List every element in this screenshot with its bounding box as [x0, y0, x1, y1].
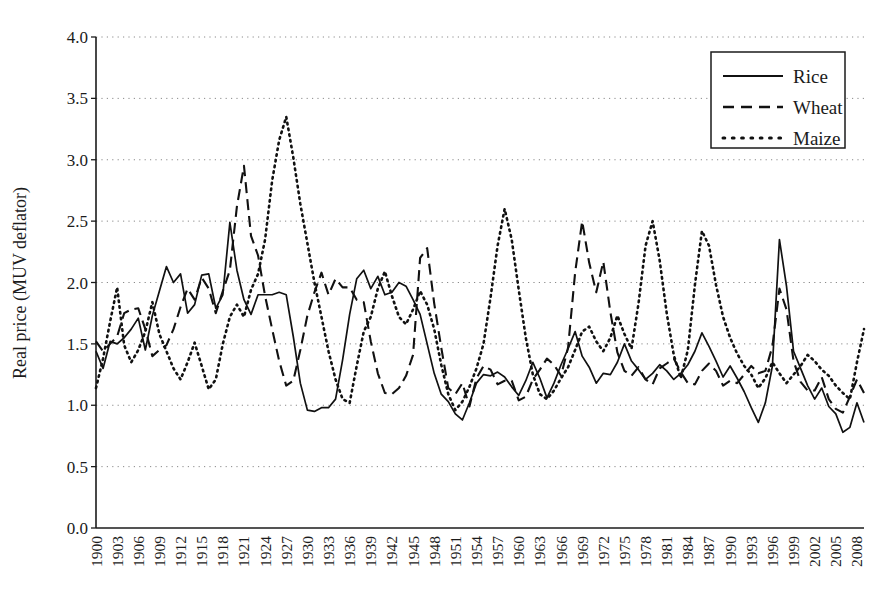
x-tick-label: 1984 [679, 536, 696, 567]
x-tick-label: 1966 [553, 536, 570, 567]
x-tick-label: 1912 [172, 536, 189, 567]
x-tick-label: 1930 [299, 536, 316, 567]
y-tick-label: 0.5 [67, 458, 88, 477]
x-tick-label: 1996 [764, 536, 781, 567]
x-tick-label: 1975 [616, 536, 633, 567]
x-tick-label: 1981 [658, 536, 675, 567]
x-tick-label: 1933 [320, 536, 337, 567]
x-tick-label: 1963 [531, 536, 548, 567]
x-tick-label: 1939 [362, 536, 379, 567]
x-tick-label: 1954 [468, 536, 485, 567]
data-series-layer [96, 117, 864, 432]
y-tick-label: 3.0 [67, 151, 88, 170]
chart-legend: RiceWheatMaize [711, 52, 845, 149]
x-tick-label: 1948 [426, 536, 443, 567]
x-tick-label: 1969 [574, 536, 591, 567]
y-axis-tick-labels: 0.00.51.01.52.02.53.03.54.0 [67, 28, 96, 538]
x-tick-label: 1924 [257, 536, 274, 567]
x-tick-label: 1951 [447, 536, 464, 567]
legend-label-maize: Maize [793, 128, 840, 149]
y-axis-title: Real price (MUV deflator) [10, 187, 31, 379]
y-tick-label: 3.5 [67, 89, 88, 108]
x-tick-label: 1921 [235, 536, 252, 567]
x-tick-label: 1960 [510, 536, 527, 567]
y-tick-label: 1.5 [67, 335, 88, 354]
x-tick-label: 1900 [88, 536, 105, 567]
x-tick-label: 2008 [848, 536, 865, 567]
x-tick-label: 1999 [785, 536, 802, 567]
legend-label-wheat: Wheat [793, 97, 843, 118]
x-tick-label: 1972 [595, 536, 612, 567]
y-tick-label: 4.0 [67, 28, 88, 47]
x-tick-label: 1909 [151, 536, 168, 567]
y-tick-label: 2.0 [67, 274, 88, 293]
y-axis-title-text: Real price (MUV deflator) [10, 187, 31, 379]
x-tick-label: 1978 [637, 536, 654, 567]
x-tick-label: 1906 [130, 536, 147, 567]
chart-figure: 0.00.51.01.52.02.53.03.54.0 190019031906… [0, 0, 883, 613]
series-line-rice [96, 222, 864, 432]
x-tick-label: 1903 [109, 536, 126, 567]
x-tick-label: 1987 [700, 536, 717, 567]
x-tick-label: 1993 [743, 536, 760, 567]
x-axis-tick-labels: 1900190319061909191219151918192119241927… [88, 536, 866, 567]
y-tick-label: 0.0 [67, 519, 88, 538]
x-tick-label: 1990 [722, 536, 739, 567]
x-tick-label: 1918 [214, 536, 231, 567]
series-line-maize [96, 117, 864, 410]
x-tick-label: 1927 [278, 536, 295, 567]
y-tick-label: 1.0 [67, 396, 88, 415]
y-tick-label: 2.5 [67, 212, 88, 231]
legend-label-rice: Rice [793, 66, 828, 87]
x-tick-label: 1915 [193, 536, 210, 567]
x-tick-label: 1936 [341, 536, 358, 567]
line-chart: 0.00.51.01.52.02.53.03.54.0 190019031906… [0, 0, 883, 613]
x-tick-label: 1945 [405, 536, 422, 567]
x-tick-label: 1957 [489, 536, 506, 567]
x-tick-label: 2005 [827, 536, 844, 567]
x-tick-label: 1942 [383, 536, 400, 567]
x-tick-label: 2002 [806, 536, 823, 567]
